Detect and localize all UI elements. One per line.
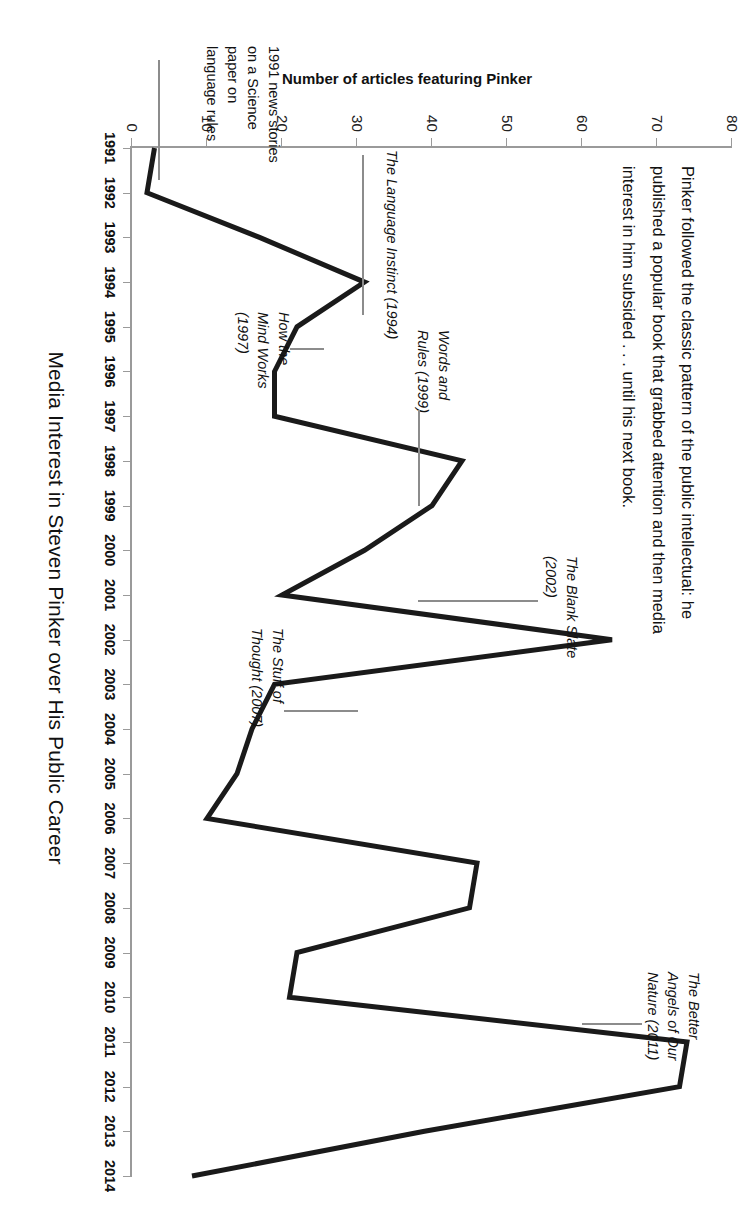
x-axis-tick-label: 2013: [102, 1108, 118, 1154]
leader-line-blank-slate: [418, 600, 538, 602]
y-axis-tick-label: 50: [499, 96, 516, 132]
annotation-science-paper: 1991 news stories on a Science paper on …: [202, 46, 284, 196]
y-axis-title: Number of articles featuring Pinker: [282, 70, 532, 87]
y-axis-tick: [581, 138, 582, 148]
y-axis-tick-label: 30: [349, 96, 366, 132]
x-axis-tick-label: 1991: [102, 125, 118, 171]
leader-line-language-instinct: [362, 155, 364, 315]
x-axis-tick: [123, 461, 132, 462]
y-axis-tick: [356, 138, 357, 148]
leader-line-how-the-mind-works: [290, 348, 324, 350]
x-axis-tick: [123, 148, 132, 149]
x-axis-tick: [123, 1176, 132, 1177]
chart-figure: 01020304050607080 1991199219931994199519…: [0, 0, 754, 1216]
caption-paragraph: Pinker followed the classic pattern of t…: [614, 166, 702, 636]
x-axis-tick: [123, 1042, 132, 1043]
x-axis-tick-label: 2001: [102, 572, 118, 618]
annotation-stuff-of-thought: The Stuff of Thought (2007): [247, 628, 288, 748]
y-axis-tick: [731, 138, 732, 148]
x-axis-tick: [123, 818, 132, 819]
x-axis-tick-label: 2006: [102, 795, 118, 841]
x-axis-tick: [123, 595, 132, 596]
x-axis-tick-label: 2010: [102, 974, 118, 1020]
x-axis-tick: [123, 1087, 132, 1088]
x-axis-tick: [123, 550, 132, 551]
x-axis-tick: [123, 416, 132, 417]
y-axis-tick: [506, 138, 507, 148]
y-axis-tick: [131, 138, 132, 148]
x-axis-tick-label: 1999: [102, 483, 118, 529]
x-axis-tick-label: 1998: [102, 438, 118, 484]
x-axis-tick-label: 2003: [102, 661, 118, 707]
y-axis-tick-label: 60: [574, 96, 591, 132]
y-axis-tick: [431, 138, 432, 148]
y-axis-tick-label: 80: [724, 96, 741, 132]
x-axis-tick: [123, 953, 132, 954]
x-axis-tick-label: 2000: [102, 527, 118, 573]
annotation-language-instinct: The Language Instinct (1994): [381, 150, 402, 380]
x-axis-tick: [123, 506, 132, 507]
x-axis-tick: [123, 774, 132, 775]
x-axis-tick: [123, 684, 132, 685]
x-axis-tick-label: 2011: [102, 1019, 118, 1065]
x-axis-tick: [123, 237, 132, 238]
x-axis-tick-label: 1993: [102, 214, 118, 260]
x-axis-tick-label: 2007: [102, 840, 118, 886]
x-axis-tick-label: 2014: [102, 1153, 118, 1199]
chart-title: Media Interest in Steven Pinker over His…: [44, 0, 68, 1216]
rotated-figure-wrapper: 01020304050607080 1991199219931994199519…: [0, 0, 754, 1216]
x-axis-tick-label: 1997: [102, 393, 118, 439]
x-axis-tick: [123, 997, 132, 998]
y-axis-tick-label: 0: [124, 96, 141, 132]
y-axis-tick-label: 40: [424, 96, 441, 132]
x-axis-tick: [123, 371, 132, 372]
leader-line-words-and-rules: [418, 410, 420, 506]
x-axis-tick-label: 2009: [102, 930, 118, 976]
x-axis-tick: [123, 282, 132, 283]
x-axis-tick-label: 2002: [102, 617, 118, 663]
x-axis-tick: [123, 1131, 132, 1132]
x-axis-tick-label: 1996: [102, 348, 118, 394]
x-axis-tick: [123, 327, 132, 328]
x-axis-tick: [123, 863, 132, 864]
annotation-better-angels: The Better Angels of Our Nature (2011): [642, 972, 704, 1102]
leader-line-science-paper: [158, 60, 160, 180]
x-axis-tick: [123, 640, 132, 641]
x-axis-tick-label: 2005: [102, 751, 118, 797]
x-axis-tick: [123, 908, 132, 909]
x-axis-tick: [123, 193, 132, 194]
y-axis-tick: [656, 138, 657, 148]
x-axis-tick-label: 2008: [102, 885, 118, 931]
x-axis-tick: [123, 729, 132, 730]
annotation-how-the-mind-works: How the Mind Works (1997): [232, 312, 294, 422]
x-axis-tick-label: 2012: [102, 1064, 118, 1110]
y-axis-tick-label: 70: [649, 96, 666, 132]
x-axis-tick-label: 1995: [102, 304, 118, 350]
annotation-blank-slate: The Blank Slate (2002): [541, 556, 582, 686]
x-axis-tick-label: 1992: [102, 170, 118, 216]
leader-line-better-angels: [582, 1023, 642, 1025]
leader-line-stuff-of-thought: [284, 710, 358, 712]
x-axis-tick-label: 2004: [102, 706, 118, 752]
x-axis-tick-label: 1994: [102, 259, 118, 305]
